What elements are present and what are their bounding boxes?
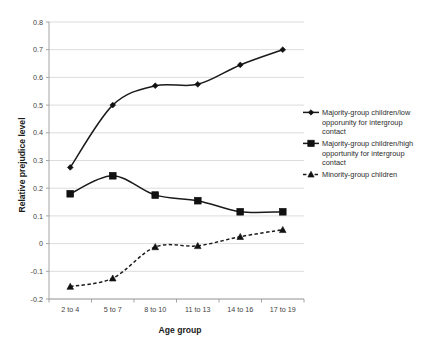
- y-tick-label: 0.7: [33, 45, 43, 54]
- y-tick-label: 0.2: [33, 184, 43, 193]
- series-1: [67, 47, 285, 171]
- legend-label: contact: [322, 158, 346, 167]
- series-3: [67, 226, 286, 289]
- y-axis-title: Relative prejudice level: [17, 117, 27, 212]
- legend-group: Majority-group children/lowopporunity fo…: [303, 108, 413, 179]
- x-tick-label: 11 to 13: [185, 305, 210, 314]
- legend-label: Majority-group children/low: [322, 108, 411, 117]
- y-tick-label: -0.2: [31, 295, 43, 304]
- data-point-square: [67, 190, 74, 197]
- axis-group: [46, 22, 304, 303]
- y-tick-label: 0.8: [33, 18, 43, 27]
- legend-label: opportunity for intergroup: [322, 149, 405, 158]
- y-tick-label: -0.1: [31, 267, 43, 276]
- xtick-label-group: 2 to 45 to 78 to 1011 to 1314 to 1617 to…: [61, 305, 295, 314]
- data-point-square: [194, 197, 201, 204]
- y-tick-label: 0: [39, 239, 43, 248]
- data-point-square: [308, 140, 314, 146]
- data-point-diamond: [280, 47, 286, 53]
- x-tick-label: 14 to 16: [227, 305, 253, 314]
- x-tick-label: 8 to 10: [144, 305, 166, 314]
- y-tick-label: 0.5: [33, 101, 43, 110]
- legend-label: Minority-group children: [322, 170, 397, 179]
- data-point-square: [152, 192, 159, 199]
- series-path: [70, 230, 283, 287]
- chart-figure: 0.80.70.60.50.40.30.20.10-0.1-0.2 2 to 4…: [0, 0, 434, 340]
- x-tick-label: 2 to 4: [61, 305, 79, 314]
- data-point-square: [109, 172, 116, 179]
- x-axis-title: Age group: [159, 325, 202, 335]
- legend-entry-2[interactable]: Majority-group children/highopportunity …: [303, 139, 413, 167]
- y-tick-label: 0.1: [33, 212, 43, 221]
- x-tick-label: 5 to 7: [104, 305, 122, 314]
- y-tick-label: 0.3: [33, 156, 43, 165]
- legend-entry-3[interactable]: Minority-group children: [303, 170, 397, 179]
- data-point-square: [279, 208, 286, 215]
- legend-label: opporunity for intergroup: [322, 118, 403, 127]
- series-group: [67, 47, 286, 290]
- x-tick-label: 17 to 19: [270, 305, 296, 314]
- series-2: [67, 172, 286, 215]
- data-point-diamond: [308, 110, 314, 116]
- data-point-diamond: [195, 81, 201, 87]
- legend-entry-1[interactable]: Majority-group children/lowopporunity fo…: [303, 108, 411, 136]
- data-point-square: [237, 208, 244, 215]
- data-point-diamond: [152, 83, 158, 89]
- data-point-triangle: [109, 275, 116, 281]
- grid-group: [49, 22, 304, 299]
- y-tick-label: 0.4: [33, 128, 43, 137]
- relative-prejudice-line-chart: 0.80.70.60.50.40.30.20.10-0.1-0.2 2 to 4…: [0, 0, 434, 340]
- legend-label: Majority-group children/high: [322, 139, 413, 148]
- y-tick-label: 0.6: [33, 73, 43, 82]
- legend-label: contact: [322, 127, 346, 136]
- ytick-label-group: 0.80.70.60.50.40.30.20.10-0.1-0.2: [31, 18, 43, 304]
- series-path: [70, 50, 283, 168]
- series-path: [70, 176, 283, 213]
- data-point-diamond: [237, 62, 243, 68]
